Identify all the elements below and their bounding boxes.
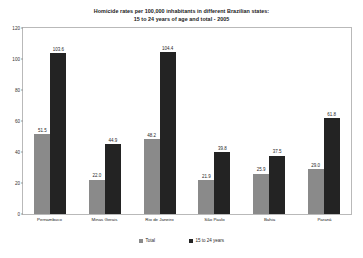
- bar-value-label: 48.2: [147, 133, 156, 138]
- bar-youth: 37.5: [269, 156, 285, 214]
- x-axis-label: Paraná: [297, 217, 352, 222]
- x-axis-label: São Paulo: [187, 217, 242, 222]
- bar-group: 22.044.9: [78, 28, 133, 214]
- bar-group: 21.939.8: [187, 28, 242, 214]
- legend-swatch-icon: [139, 239, 143, 243]
- bar-group: 25.937.5: [242, 28, 297, 214]
- bar-youth: 44.9: [105, 144, 121, 214]
- plot-frame: 020406080100120 51.5103.622.044.948.2104…: [22, 27, 352, 215]
- bar-youth: 103.6: [50, 53, 66, 214]
- x-axis-label: Rio de Janeiro: [132, 217, 187, 222]
- bar-group: 48.2104.4: [132, 28, 187, 214]
- bar-total: 48.2: [144, 139, 160, 214]
- plot-area: 020406080100120 51.5103.622.044.948.2104…: [23, 28, 351, 214]
- legend-label: 15 to 24 years: [195, 238, 224, 243]
- x-axis-label: Pernambuco: [22, 217, 77, 222]
- bar-value-label: 61.8: [327, 112, 336, 117]
- bar-group: 51.5103.6: [23, 28, 78, 214]
- x-axis-category-labels: PernambucoMinas GeraisRio de JaneiroSão …: [22, 217, 352, 222]
- bar-total: 22.0: [89, 180, 105, 214]
- bar-value-label: 104.4: [162, 46, 173, 51]
- bar-total: 29.0: [308, 169, 324, 214]
- bar-value-label: 29.0: [311, 163, 320, 168]
- bar-groups: 51.5103.622.044.948.2104.421.939.825.937…: [23, 28, 351, 214]
- bar-youth: 39.8: [214, 152, 230, 214]
- legend-swatch-icon: [189, 239, 193, 243]
- bar-value-label: 51.5: [38, 128, 47, 133]
- bar-value-label: 103.6: [53, 47, 64, 52]
- bar-total: 51.5: [34, 134, 50, 214]
- bar-value-label: 37.5: [273, 149, 282, 154]
- bar-youth: 61.8: [324, 118, 340, 214]
- chart-title-line-2: 15 to 24 years of age and total - 2005: [0, 15, 363, 23]
- bar-value-label: 44.9: [109, 138, 118, 143]
- bar-value-label: 22.0: [93, 173, 102, 178]
- legend-item[interactable]: 15 to 24 years: [189, 238, 224, 243]
- bar-value-label: 21.9: [202, 174, 211, 179]
- bar-total: 25.9: [253, 174, 269, 214]
- x-axis-label: Bahia: [242, 217, 297, 222]
- bar-chart: Homicide rates per 100,000 inhabitants i…: [0, 0, 363, 258]
- bar-youth: 104.4: [160, 52, 176, 214]
- bar-group: 29.061.8: [296, 28, 351, 214]
- legend-label: Total: [145, 238, 155, 243]
- bar-value-label: 39.8: [218, 146, 227, 151]
- legend-item[interactable]: Total: [139, 238, 155, 243]
- chart-legend: Total15 to 24 years: [0, 238, 363, 243]
- chart-title: Homicide rates per 100,000 inhabitants i…: [0, 7, 363, 23]
- bar-total: 21.9: [198, 180, 214, 214]
- chart-title-line-1: Homicide rates per 100,000 inhabitants i…: [0, 7, 363, 15]
- bar-value-label: 25.9: [257, 167, 266, 172]
- x-axis-label: Minas Gerais: [77, 217, 132, 222]
